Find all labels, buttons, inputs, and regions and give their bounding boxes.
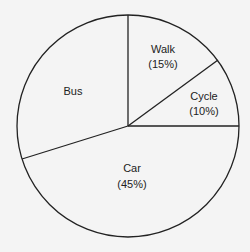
label-cycle-pct: (10%)	[189, 105, 218, 117]
label-walk-pct: (15%)	[148, 58, 177, 70]
label-cycle-name: Cycle	[190, 90, 218, 102]
label-bus-name: Bus	[64, 85, 83, 97]
label-car-pct: (45%)	[117, 178, 146, 190]
pie-chart: Walk (15%) Cycle (10%) Bus Car (45%)	[0, 0, 250, 252]
label-car-name: Car	[123, 162, 141, 174]
label-walk-name: Walk	[151, 43, 176, 55]
